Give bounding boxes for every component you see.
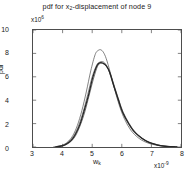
curves-layer — [33, 30, 181, 147]
y-tick-label: 2 — [0, 121, 9, 128]
x-tick-label: 7 — [142, 150, 162, 157]
x-tick-label: 4 — [52, 150, 72, 157]
x-tick-label: 8 — [172, 150, 192, 157]
chart-title: pdf for x2-displacement of node 9 — [0, 2, 194, 11]
figure-pdf-displacement: pdf for x2-displacement of node 9 x106 x… — [0, 0, 194, 178]
x-axis-label: wk — [0, 157, 194, 166]
y-tick-label: 0 — [0, 145, 9, 152]
y-tick-label: 6 — [0, 73, 9, 80]
y-axis-exponent-prefix: x10 — [31, 16, 41, 23]
x-axis-label-subscript: k — [98, 160, 101, 166]
y-tick-label: 10 — [0, 26, 9, 33]
plot-area — [32, 29, 182, 148]
x-tick-label: 5 — [82, 150, 102, 157]
chart-title-part-a: pdf for x — [43, 2, 70, 11]
pdf-curve — [54, 50, 175, 147]
x-tick-label: 6 — [112, 150, 132, 157]
x-tick-label: 3 — [22, 150, 42, 157]
y-tick-label: 8 — [0, 49, 9, 56]
pdf-curve — [56, 63, 177, 147]
y-axis-exponent-value: 6 — [41, 15, 44, 20]
y-axis-exponent: x106 — [31, 15, 44, 23]
chart-title-part-b: -displacement of node 9 — [72, 2, 151, 11]
y-tick-label: 4 — [0, 97, 9, 104]
